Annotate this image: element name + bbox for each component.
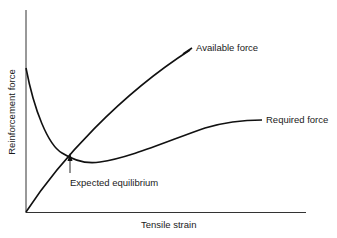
available-force-label: Available force (196, 43, 258, 53)
equilibrium-annotation: Expected equilibrium (70, 178, 158, 188)
required-force-curve (26, 68, 262, 163)
required-force-label: Required force (266, 115, 328, 125)
x-axis-label: Tensile strain (141, 220, 196, 230)
y-axis-label: Reinforcement force (6, 69, 17, 155)
available-force-leader (183, 48, 192, 54)
